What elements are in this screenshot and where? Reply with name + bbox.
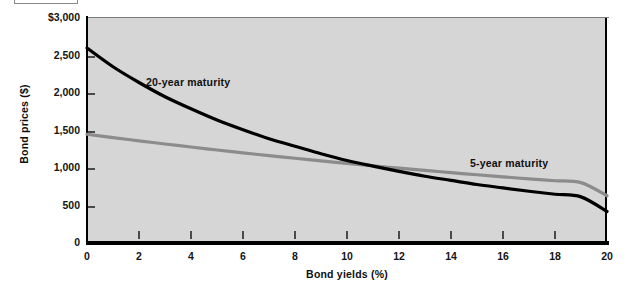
series-label-5-year: 5-year maturity: [470, 157, 548, 169]
series-curves: [0, 0, 632, 293]
bond-price-yield-chart: 05001,0001,5002,0002,500$3,000 024681012…: [0, 0, 632, 293]
series-line-20-year: [87, 48, 607, 212]
series-label-20-year: 20-year maturity: [146, 76, 230, 88]
